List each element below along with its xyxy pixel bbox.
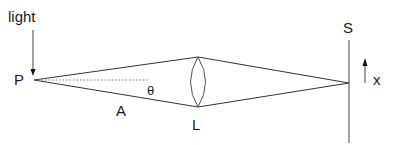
lens-l-label: L	[192, 116, 200, 133]
angle-theta-label: θ	[147, 83, 154, 98]
upper-ray-to-screen	[198, 57, 349, 83]
lower-ray-to-screen	[198, 83, 349, 107]
upper-ray-to-lens	[34, 57, 198, 80]
optics-diagram: light P θ A L S x	[0, 0, 399, 145]
x-direction-arrow-icon	[363, 58, 368, 83]
segment-a-label: A	[116, 102, 126, 119]
light-arrow-icon	[31, 30, 36, 76]
point-p-label: P	[14, 71, 24, 88]
light-label: light	[8, 8, 36, 25]
screen-s-label: S	[343, 19, 353, 36]
lens-shape	[191, 57, 206, 107]
x-axis-label: x	[373, 71, 381, 88]
